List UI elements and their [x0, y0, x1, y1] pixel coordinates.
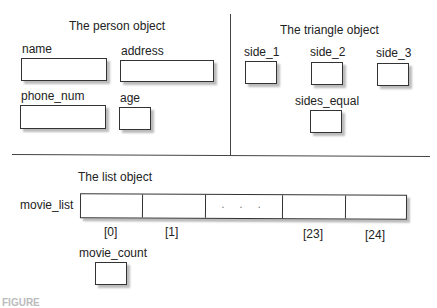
field-box-address — [120, 60, 214, 82]
field-box-age — [119, 107, 151, 130]
array-cell-24 — [346, 196, 406, 219]
list-object-title: The list object — [78, 170, 152, 184]
field-label-sides-equal: sides_equal — [295, 94, 359, 108]
field-box-movie-count — [95, 262, 127, 285]
field-label-age: age — [120, 91, 140, 105]
index-label-24: [24] — [365, 228, 385, 242]
field-box-sides-equal — [310, 110, 342, 133]
field-box-side-3 — [377, 63, 409, 86]
triangle-object-title: The triangle object — [280, 23, 379, 37]
array-cell-ellipsis: · · · — [206, 195, 283, 218]
person-object-title: The person object — [69, 19, 165, 33]
field-box-side-1 — [245, 61, 277, 84]
array-cell-1 — [143, 194, 206, 217]
array-cell-0 — [81, 194, 143, 217]
field-label-name: name — [22, 42, 52, 56]
array-cell-23 — [283, 195, 346, 218]
movie-list-array: · · · — [80, 193, 407, 220]
field-label-address: address — [121, 44, 164, 58]
field-label-side-3: side_3 — [376, 46, 411, 60]
index-label-0: [0] — [104, 225, 117, 239]
field-box-phone-num — [20, 105, 106, 129]
field-box-side-2 — [311, 62, 343, 85]
field-label-movie-count: movie_count — [79, 246, 147, 260]
field-label-side-2: side_2 — [310, 45, 345, 59]
figure-caption: FIGURE — [2, 297, 40, 308]
field-box-name — [21, 58, 107, 81]
vertical-divider — [230, 14, 231, 156]
field-label-phone-num: phone_num — [21, 89, 84, 103]
array-label-movie-list: movie_list — [20, 198, 73, 212]
index-label-23: [23] — [303, 227, 323, 241]
index-label-1: [1] — [165, 225, 178, 239]
horizontal-divider — [12, 154, 430, 157]
field-label-side-1: side_1 — [244, 45, 279, 59]
